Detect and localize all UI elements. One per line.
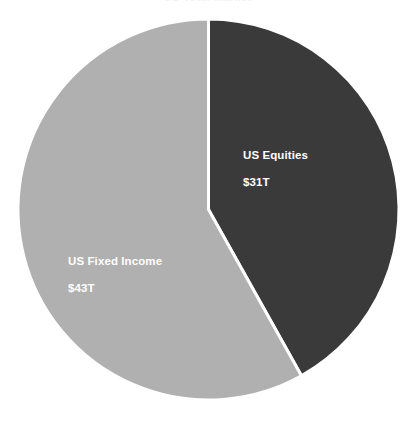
slice-value-us-fixed-income: $43T — [68, 283, 95, 295]
slice-label-us-fixed-income: US Fixed Income — [68, 256, 162, 268]
slice-label-us-equities: US Equities — [243, 150, 308, 162]
slice-value-us-equities: $31T — [243, 177, 270, 189]
pie-chart-svg — [0, 0, 415, 430]
pie-slice-group — [18, 19, 399, 400]
pie-chart-figure: US Total Market US Equities $31T US Fixe… — [0, 0, 415, 430]
